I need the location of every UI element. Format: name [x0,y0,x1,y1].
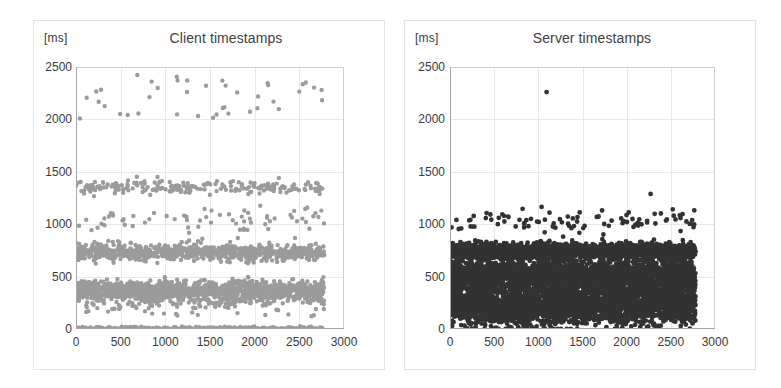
x-tick-label: 1500 [197,335,224,349]
plot-area-server [450,67,715,329]
x-tick-label: 0 [73,335,80,349]
y-tick-label: 2500 [418,60,445,74]
x-tick-label: 1500 [569,335,596,349]
scatter-canvas [76,67,344,329]
x-tick-label: 2000 [241,335,268,349]
x-tick-label: 2500 [286,335,313,349]
y-tick-label: 1500 [418,165,445,179]
x-tick-label: 500 [484,335,504,349]
x-tick-label: 2500 [657,335,684,349]
y-tick-label: 500 [425,270,445,284]
y-tick-label: 1000 [45,217,72,231]
y-tick-label: 2000 [418,112,445,126]
x-tick-label: 0 [447,335,454,349]
y-tick-label: 2500 [45,60,72,74]
data-points [450,90,698,329]
y-tick-label: 2000 [45,112,72,126]
y-tick-label: 1500 [45,165,72,179]
x-tick-label: 3000 [702,335,729,349]
x-tick-label: 500 [111,335,131,349]
y-tick-label: 0 [65,322,72,336]
chart-panel-server: [ms] Server timestamps 25002000150010005… [404,20,756,370]
x-axis-ticks-server: 050010001500200025003000 [450,335,715,353]
plot-area-client [76,67,344,329]
chart-title-client: Client timestamps [34,30,384,46]
y-axis-ticks-server: 25002000150010005000 [407,67,445,329]
y-tick-label: 500 [52,270,72,284]
chart-panel-client: [ms] Client timestamps 25002000150010005… [33,20,385,370]
y-axis-ticks-client: 25002000150010005000 [34,67,72,329]
chart-title-server: Server timestamps [405,30,755,46]
y-tick-label: 1000 [418,217,445,231]
x-tick-label: 1000 [152,335,179,349]
x-tick-label: 3000 [331,335,358,349]
figure-root: [ms] Client timestamps 25002000150010005… [0,0,781,388]
x-axis-ticks-client: 050010001500200025003000 [76,335,344,353]
x-tick-label: 2000 [613,335,640,349]
y-tick-label: 0 [438,322,445,336]
data-points [76,73,327,329]
x-tick-label: 1000 [525,335,552,349]
scatter-canvas [450,67,715,329]
